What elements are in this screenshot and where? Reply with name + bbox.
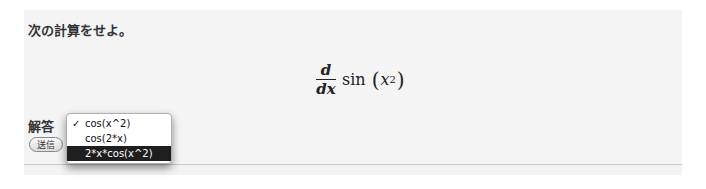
answer-dropdown-menu[interactable]: ✓ cos(x^2) cos(2*x) 2*x*cos(x^2) (66, 113, 172, 164)
option-label: 2*x*cos(x^2) (85, 148, 153, 159)
exponent: 2 (389, 74, 395, 85)
math-formula: d dx sin ( x2 ) (316, 62, 405, 97)
function-name: sin (342, 70, 366, 89)
question-prompt: 次の計算をせよ。 (28, 20, 132, 39)
dropdown-option-2x-cos-x2[interactable]: 2*x*cos(x^2) (67, 146, 171, 161)
dropdown-option-cos-x2[interactable]: ✓ cos(x^2) (67, 116, 171, 131)
open-paren: ( (372, 68, 380, 92)
option-label: cos(2*x) (85, 133, 127, 144)
divider (24, 164, 682, 165)
answer-label: 解答 (28, 116, 54, 135)
submit-button[interactable]: 送信 (29, 137, 63, 152)
dropdown-option-cos-2x[interactable]: cos(2*x) (67, 131, 171, 146)
fraction-denominator: dx (316, 81, 335, 97)
checkmark-icon: ✓ (72, 116, 80, 131)
variable: x (380, 70, 389, 89)
option-label: cos(x^2) (85, 118, 130, 129)
derivative-fraction: d dx (316, 62, 336, 97)
fraction-numerator: d (321, 62, 332, 78)
close-paren: ) (397, 68, 405, 92)
